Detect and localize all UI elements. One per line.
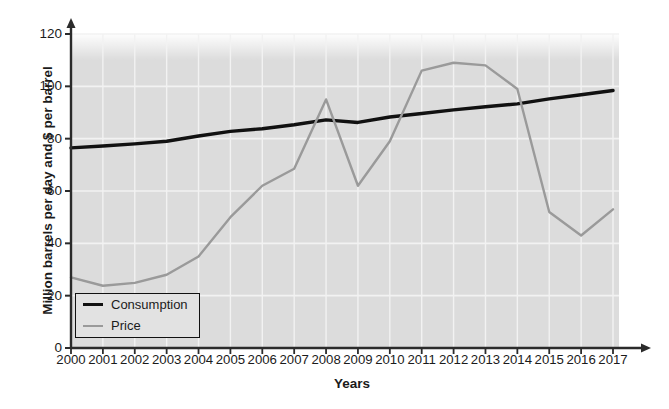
legend-item-price: Price [76, 315, 199, 336]
line-chart: 020406080100120 200020012002200320042005… [0, 0, 669, 409]
legend-swatch-consumption-icon [83, 303, 103, 306]
y-axis-title: Million barrels per day and $ per barrel [40, 41, 55, 341]
legend-swatch-price-icon [83, 325, 103, 327]
x-axis-title: Years [71, 376, 633, 391]
chart-legend: Consumption Price [75, 293, 200, 338]
legend-label-price: Price [111, 319, 141, 332]
legend-label-consumption: Consumption [111, 298, 188, 311]
chart-plot-area [0, 0, 669, 409]
legend-item-consumption: Consumption [76, 294, 199, 315]
y-axis-tick-label: 120 [28, 26, 62, 41]
x-axis-tick-label: 2017 [593, 352, 633, 367]
